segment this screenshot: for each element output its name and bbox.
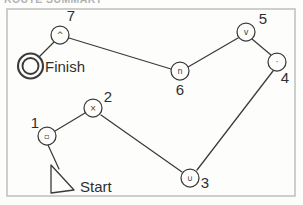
caret-up-icon: ^: [57, 31, 64, 40]
edge-1-start: [48, 145, 59, 169]
node-6-label: 6: [176, 81, 184, 98]
node-5[interactable]: v5: [237, 10, 267, 41]
start-marker[interactable]: Start: [51, 165, 113, 195]
edge-2-1: [55, 113, 85, 131]
node-1-label: 1: [31, 114, 39, 131]
finish-marker[interactable]: Finish: [18, 54, 85, 79]
node-4[interactable]: ·4: [268, 53, 289, 86]
edge-6-5: [188, 38, 238, 67]
node-3-label: 3: [201, 174, 209, 191]
edge-5-4: [252, 39, 271, 55]
node-1[interactable]: ▫1: [31, 114, 56, 145]
start-marker-label: Start: [80, 178, 113, 195]
node-7-label: 7: [67, 7, 75, 24]
edge-3-2: [101, 115, 182, 172]
node-2-label: 2: [104, 88, 112, 105]
node-3[interactable]: ∪3: [181, 169, 209, 191]
diagram-canvas: ROUTE SUMMARY FinishStart ^7n6v5·4×2▫1∪3: [0, 0, 303, 205]
arch-icon: n: [177, 67, 182, 76]
node-5-label: 5: [259, 10, 267, 27]
edge-finish-7: [39, 42, 54, 57]
node-4-label: 4: [281, 69, 289, 86]
square-icon: ▫: [44, 132, 49, 141]
dot-icon: ·: [276, 58, 279, 67]
start-triangle: [51, 165, 74, 193]
caret-down-icon: v: [244, 28, 249, 37]
node-2[interactable]: ×2: [84, 88, 112, 117]
node-6[interactable]: n6: [171, 62, 189, 98]
route-diagram: FinishStart ^7n6v5·4×2▫1∪3: [0, 0, 303, 205]
edge-4-3: [197, 71, 273, 170]
cross-icon: ×: [90, 104, 97, 113]
finish-marker-label: Finish: [45, 58, 85, 75]
cup-icon: ∪: [187, 174, 193, 183]
